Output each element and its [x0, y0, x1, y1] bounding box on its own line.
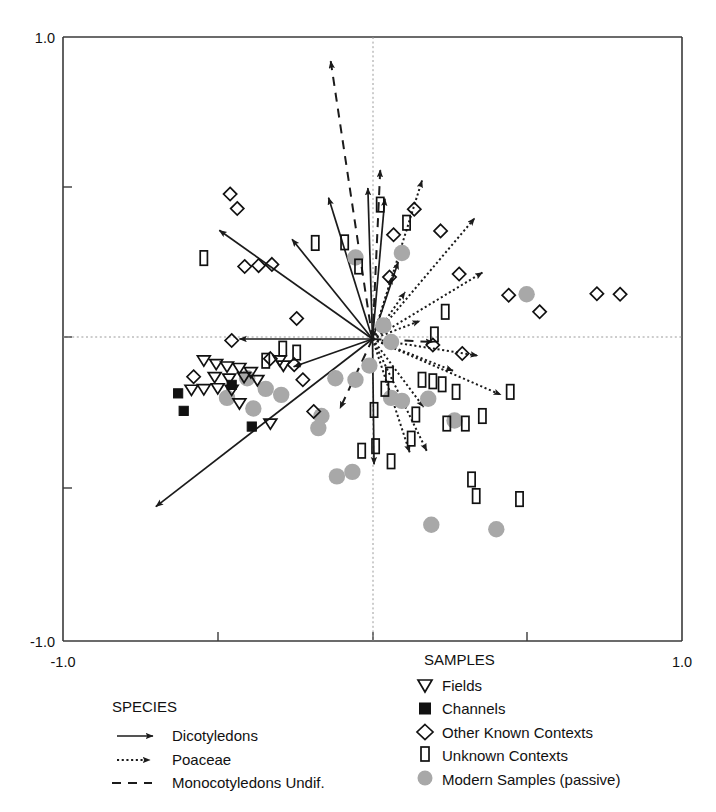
y-axis-bottom-tick-label: -1.0	[30, 634, 55, 650]
filled-square-icon	[420, 703, 431, 714]
data-point	[452, 385, 459, 399]
tall-rect-icon	[421, 747, 429, 761]
samples-legend-item-4-label: Modern Samples (passive)	[442, 771, 620, 788]
data-point	[420, 391, 436, 407]
samples-legend-title: SAMPLES	[424, 651, 495, 668]
species-vector-dashed-24	[373, 339, 433, 342]
species-vector-dashed-22	[331, 61, 373, 339]
species-legend-item-0-label: Dicotyledons	[172, 727, 258, 744]
diamond-icon	[417, 725, 433, 740]
data-point	[327, 370, 343, 386]
data-point	[394, 245, 410, 261]
samples-legend: SAMPLES Fields Channels Other Known Cont…	[417, 651, 620, 788]
data-point	[210, 360, 223, 370]
data-point	[516, 492, 523, 506]
samples-legend-item-2-label: Other Known Contexts	[442, 724, 593, 741]
data-point	[225, 334, 238, 347]
data-point	[290, 312, 303, 325]
data-point	[462, 416, 469, 430]
gray-circle-icon	[418, 771, 433, 786]
data-point	[296, 373, 309, 386]
data-point	[245, 400, 261, 416]
data-point	[403, 216, 410, 230]
samples-legend-item-1-label: Channels	[442, 700, 505, 717]
data-point	[347, 372, 363, 388]
data-point	[358, 444, 365, 458]
data-point	[488, 521, 504, 537]
sample-markers-layer	[174, 187, 627, 537]
data-point	[174, 389, 183, 398]
data-point	[221, 362, 234, 372]
data-point	[185, 385, 198, 395]
species-legend: SPECIES Dicotyledons Poaceae Monocotyled…	[112, 698, 325, 791]
data-point	[387, 228, 400, 241]
species-vector-solid-7	[294, 339, 373, 367]
data-point	[264, 419, 277, 429]
data-point	[310, 420, 326, 436]
data-point	[197, 385, 210, 395]
data-point	[375, 317, 391, 333]
data-point	[387, 454, 394, 468]
data-point	[446, 412, 462, 428]
data-point	[468, 472, 475, 486]
series-unknown-contexts	[200, 197, 523, 506]
x-axis-right-tick-label: 1.0	[672, 654, 692, 670]
chart-svg: 1.0 -1.0 -1.0 1.0 SPECIES Dicotyledons P…	[0, 0, 716, 812]
data-point	[273, 387, 289, 403]
data-point	[238, 260, 251, 273]
data-point	[502, 289, 515, 302]
data-point	[408, 431, 415, 445]
data-point	[344, 464, 360, 480]
data-point	[361, 357, 377, 373]
data-point	[227, 380, 236, 389]
samples-legend-item-3-label: Unknown Contexts	[442, 747, 568, 764]
down-triangle-icon	[418, 680, 432, 692]
species-legend-item-1-label: Poaceae	[172, 751, 231, 768]
data-point	[312, 236, 319, 250]
data-point	[408, 203, 421, 216]
data-point	[208, 373, 221, 383]
data-point	[439, 377, 446, 391]
data-point	[473, 489, 480, 503]
data-point	[429, 374, 436, 388]
species-vector-dashed-23	[373, 170, 381, 339]
data-point	[279, 341, 286, 355]
species-legend-title: SPECIES	[112, 698, 177, 715]
data-point	[179, 406, 188, 415]
data-point	[224, 187, 237, 200]
data-point	[231, 202, 244, 215]
data-point	[453, 267, 466, 280]
data-point	[533, 305, 546, 318]
data-point	[518, 286, 534, 302]
data-point	[418, 373, 425, 387]
data-point	[200, 251, 207, 265]
data-point	[442, 305, 449, 319]
data-point	[394, 393, 410, 409]
data-point	[434, 224, 447, 237]
species-vector-dotted-13	[373, 292, 405, 339]
data-point	[507, 385, 514, 399]
data-point	[412, 407, 419, 421]
data-point	[233, 399, 246, 409]
species-vector-solid-2	[329, 198, 373, 339]
data-point	[383, 334, 399, 350]
data-point	[479, 409, 486, 423]
data-point	[197, 356, 210, 366]
y-axis-top-tick-label: 1.0	[35, 30, 55, 46]
species-legend-item-2-label: Monocotyledons Undif.	[172, 774, 325, 791]
data-point	[590, 287, 603, 300]
samples-legend-item-0-label: Fields	[442, 677, 482, 694]
x-axis-left-tick-label: -1.0	[51, 654, 76, 670]
data-point	[423, 517, 439, 533]
data-point	[247, 422, 256, 431]
data-point	[187, 370, 200, 383]
species-vectors-layer	[156, 61, 501, 506]
data-point	[614, 288, 627, 301]
ordination-biplot-figure: 1.0 -1.0 -1.0 1.0 SPECIES Dicotyledons P…	[0, 0, 716, 812]
data-point	[329, 468, 345, 484]
species-vector-solid-0	[219, 230, 372, 339]
